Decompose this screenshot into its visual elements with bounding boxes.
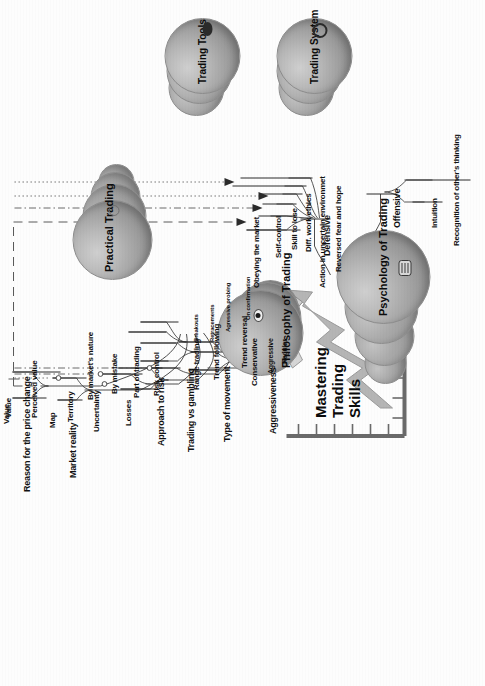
leaf-label-skill-to-lose[interactable]: Skill to lose xyxy=(290,208,298,250)
leaf-label-action-uncertain-environment[interactable]: Action in uncertain environmet xyxy=(318,176,326,288)
connector-arrowheads xyxy=(224,178,268,226)
leaf-label-conservative[interactable]: Conservative xyxy=(250,338,258,386)
leaf-label-trend-reversal[interactable]: Trend reversal xyxy=(240,316,248,368)
title-line-1: Mastering xyxy=(312,347,329,418)
leaf-label-regular[interactable]: Regular xyxy=(280,339,287,364)
node-trading-tools[interactable]: Trading Tools xyxy=(160,2,260,120)
leaf-label-territory[interactable]: Territory xyxy=(66,391,74,422)
node-practical-trading[interactable]: Practical Trading xyxy=(62,156,162,286)
leaf-label-recognition-of-others-thinking[interactable]: Recognition of other's thinking xyxy=(452,134,460,246)
page-title: Mastering Trading Skills xyxy=(312,347,362,418)
leaf-label-perceived-value[interactable]: Perceived value xyxy=(30,361,38,419)
practical-label: Practical Trading xyxy=(102,183,114,272)
leaf-label-value-dup[interactable]: Value xyxy=(4,398,12,418)
leaf-label-range-trading[interactable]: Range trading xyxy=(192,339,200,390)
leaf-label-by-mistake[interactable]: By mistake xyxy=(110,354,118,394)
leaf-label-by-markets-nature[interactable]: By market's nature xyxy=(86,332,94,400)
brain-icon xyxy=(398,260,411,276)
branch-label-offensive[interactable]: Offensive xyxy=(392,189,401,228)
branch-label-market-reality[interactable]: Market reality xyxy=(68,423,77,478)
branch-label-aggressiveness[interactable]: Aggressiveness xyxy=(268,368,277,434)
title-line-2: Trading xyxy=(329,347,346,418)
leaf-label-reversed-fear-and-hope[interactable]: Reversed fear and hope xyxy=(334,186,342,272)
system-label: Trading System xyxy=(308,10,319,84)
leaf-label-breakouts[interactable]: Breakouts xyxy=(192,314,198,342)
branch-label-losses[interactable]: Losses xyxy=(124,400,132,426)
leaf-label-retracements[interactable]: Retracements xyxy=(208,305,214,342)
leaf-label-part-of-trading[interactable]: Part of trading xyxy=(132,346,140,398)
branch-label-type-of-movement[interactable]: Type of movement xyxy=(222,366,231,442)
wrench-icon xyxy=(202,22,212,36)
leaf-label-aggressive[interactable]: Aggressive xyxy=(266,338,273,374)
node-trading-system[interactable]: Trading System xyxy=(272,2,372,120)
leaf-label-diff-work-ethics[interactable]: Diff. work ethics xyxy=(304,194,312,252)
mindmap-canvas: Philosophy of Trading Practical Trading … xyxy=(0,0,485,686)
leaf-label-obeying-the-market[interactable]: Obeying the market xyxy=(252,217,260,288)
gear-icon xyxy=(312,23,327,38)
leaf-label-risk-control[interactable]: Risk control xyxy=(152,352,160,396)
leaf-label-intuition[interactable]: Intuition xyxy=(430,198,438,228)
psychology-label: Psychology of Trading xyxy=(376,198,388,316)
eye-icon xyxy=(253,309,263,322)
leaf-label-on-confirmation[interactable]: On confirmation xyxy=(244,277,250,320)
disc-stack-icon xyxy=(108,205,119,216)
leaf-label-self-control[interactable]: Self-control xyxy=(274,216,282,258)
leaf-label-agressive-probing[interactable]: Agressive probing xyxy=(224,283,230,332)
leaf-label-map[interactable]: Map xyxy=(48,413,56,428)
title-line-3: Skills xyxy=(346,347,363,418)
mindmap-screenshot: Philosophy of Trading Practical Trading … xyxy=(0,0,485,686)
